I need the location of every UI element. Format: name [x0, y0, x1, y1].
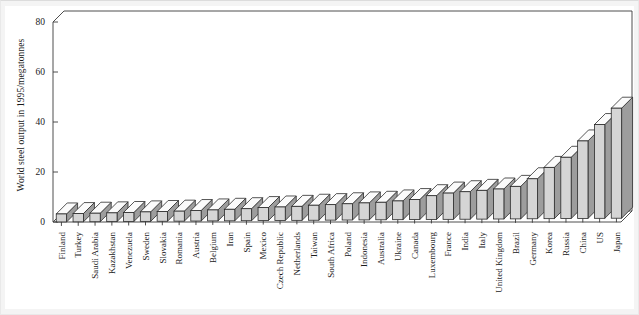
bar-front-face — [124, 212, 134, 221]
x-tick-label: Korea — [544, 232, 554, 254]
frame-top-left-slant — [53, 11, 64, 22]
bar-front-face — [258, 208, 268, 221]
bar-front-face — [157, 212, 167, 222]
bar-front-face — [477, 190, 487, 219]
x-tick-label: Japan — [612, 232, 622, 253]
bar-chart: 020406080 FinlandTurkeySaudi ArabiaKazak… — [0, 0, 639, 315]
bar-front-face — [443, 193, 453, 219]
bar-front-face — [224, 209, 234, 221]
y-tick-label: 60 — [36, 67, 46, 77]
x-tick-label: Venezuela — [124, 232, 134, 269]
x-tick-label: Slovakia — [158, 232, 168, 264]
bar-front-face — [309, 205, 319, 220]
bar-front-face — [73, 214, 83, 222]
bar-front-face — [191, 211, 201, 222]
bar-front-face — [90, 213, 100, 222]
x-tick-label: Austria — [191, 232, 201, 259]
x-tick-label: Sweden — [141, 232, 151, 261]
x-tick-label: United Kingdom — [494, 232, 504, 293]
bar-front-face — [342, 204, 352, 220]
x-tick-label: Saudi Arabia — [90, 232, 100, 279]
x-tick-label: Indonesia — [359, 232, 369, 267]
y-axis-ticks: 020406080 — [36, 17, 59, 227]
bar-front-face — [376, 202, 386, 220]
bar-front-face — [107, 213, 117, 222]
bar-side-face — [622, 97, 633, 218]
x-tick-label: US — [595, 232, 605, 244]
bar-front-face — [494, 189, 504, 219]
x-tick-label: Kazakhstan — [107, 232, 117, 274]
bar-front-face — [56, 214, 66, 222]
x-tick-label: Taiwan — [309, 232, 319, 259]
bar — [611, 97, 632, 218]
x-tick-label: France — [443, 232, 453, 257]
x-tick-label: Czech Republic — [275, 232, 285, 289]
x-tick-label: Spain — [242, 232, 252, 253]
x-tick-label: India — [460, 232, 470, 251]
bar-front-face — [460, 192, 470, 220]
bar-front-face — [561, 157, 571, 218]
x-tick-label: Mexico — [258, 232, 268, 260]
y-tick-label: 0 — [40, 217, 45, 227]
x-tick-label: Brazil — [511, 232, 521, 254]
bar-front-face — [578, 141, 588, 219]
x-tick-label: Canada — [410, 232, 420, 259]
y-tick-label: 80 — [36, 17, 46, 27]
x-tick-label: South Africa — [326, 232, 336, 278]
x-tick-label: Belgium — [208, 232, 218, 263]
bar-front-face — [426, 196, 436, 220]
chart-page: World steel output in 1995/megatonnes 02… — [0, 0, 639, 315]
x-tick-label: China — [578, 232, 588, 254]
x-tick-label: Germany — [528, 232, 538, 266]
bar-front-face — [544, 167, 554, 218]
x-tick-label: Turkey — [73, 232, 83, 258]
bar-front-face — [174, 211, 184, 221]
bar-front-face — [510, 186, 520, 219]
bar-front-face — [393, 201, 403, 220]
bar-front-face — [611, 108, 621, 218]
bar-front-face — [292, 206, 302, 220]
x-tick-label: Finland — [57, 232, 67, 260]
bar-front-face — [275, 207, 285, 221]
x-tick-label: Luxembourg — [427, 232, 437, 279]
bar-front-face — [325, 205, 335, 221]
y-tick-label: 20 — [36, 167, 46, 177]
bars-group — [56, 97, 632, 222]
bar-front-face — [527, 179, 537, 219]
bar-front-face — [594, 125, 604, 219]
x-tick-label: Australia — [376, 232, 386, 265]
x-tick-label: Iran — [225, 232, 235, 247]
x-tick-label: Poland — [343, 232, 353, 258]
y-tick-label: 40 — [36, 117, 46, 127]
bar-front-face — [208, 210, 218, 221]
x-axis-labels: FinlandTurkeySaudi ArabiaKazakhstanVenez… — [57, 218, 622, 293]
x-tick-label: Ukraine — [393, 232, 403, 261]
x-tick-label: Russia — [561, 232, 571, 256]
bar-front-face — [359, 203, 369, 220]
bar-front-face — [409, 200, 419, 220]
x-tick-label: Romania — [174, 232, 184, 265]
x-tick-label: Netherlands — [292, 232, 302, 276]
bar-front-face — [241, 209, 251, 221]
bar-front-face — [140, 212, 150, 222]
x-tick-label: Italy — [477, 232, 487, 249]
